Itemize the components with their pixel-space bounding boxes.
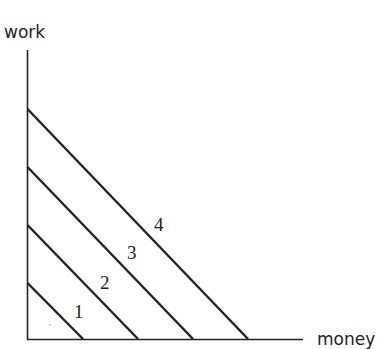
line-4 [28, 109, 249, 339]
line-label-4: 4 [154, 214, 164, 235]
line-label-2: 2 [100, 272, 110, 293]
line-label-1: 1 [74, 301, 84, 322]
x-axis-label: money [317, 329, 375, 349]
indifference-diagram: work money 1 2 3 4 [0, 0, 381, 349]
line-3 [28, 167, 194, 339]
y-axis-label: work [4, 22, 45, 42]
stray-dot [49, 324, 51, 326]
line-label-3: 3 [127, 242, 137, 263]
